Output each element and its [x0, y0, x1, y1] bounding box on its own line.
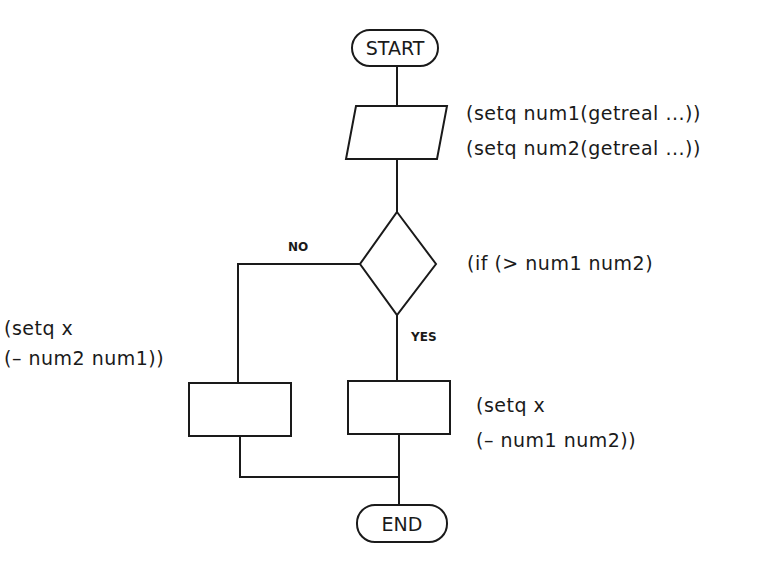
- yes-process-line-1: (setq x: [476, 394, 545, 416]
- end-label: END: [382, 513, 423, 535]
- yes-process-rect: [348, 381, 450, 434]
- no-process-line-1: (setq x: [4, 317, 73, 339]
- input-line-2: (setq num2(getreal ...)): [466, 137, 701, 159]
- no-process-line-2: (– num2 num1)): [4, 347, 164, 369]
- yes-label: YES: [410, 330, 437, 344]
- yes-process-line-2: (– num1 num2)): [476, 429, 636, 451]
- start-label: START: [366, 37, 425, 59]
- end-node: END: [357, 505, 447, 542]
- decision-condition: (if (> num1 num2): [467, 252, 653, 274]
- input-parallelogram-shape: [346, 106, 447, 159]
- decision-diamond-shape: [360, 212, 436, 315]
- connector-no-branch: [238, 264, 360, 383]
- connector-no-merge: [240, 436, 400, 477]
- yes-process-node: (setq x (– num1 num2)): [348, 381, 636, 451]
- no-process-rect: [189, 383, 291, 436]
- decision-node: (if (> num1 num2): [360, 212, 653, 315]
- input-node: (setq num1(getreal ...)) (setq num2(getr…: [346, 102, 701, 159]
- no-label: NO: [288, 240, 308, 254]
- no-process-node: (setq x (– num2 num1)): [4, 317, 291, 436]
- flowchart-canvas: START (setq num1(getreal ...)) (setq num…: [0, 0, 762, 572]
- input-line-1: (setq num1(getreal ...)): [466, 102, 701, 124]
- start-node: START: [352, 30, 438, 66]
